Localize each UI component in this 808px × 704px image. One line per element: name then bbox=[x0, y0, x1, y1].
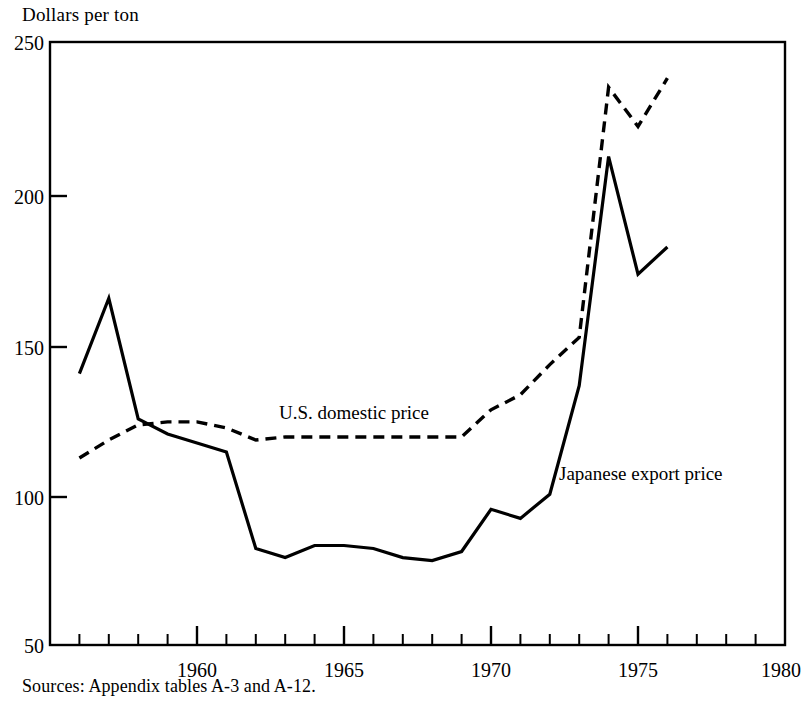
ytick-label: 200 bbox=[14, 186, 44, 208]
plot-frame bbox=[50, 42, 785, 645]
series-label-japanese-export-price: Japanese export price bbox=[559, 463, 723, 484]
ytick-label: 250 bbox=[14, 32, 44, 54]
chart-figure: Dollars per ton 250 200 150 100 50 bbox=[0, 0, 808, 704]
xtick-label: 1965 bbox=[324, 659, 364, 681]
y-axis-tick-labels: 250 200 150 100 50 bbox=[14, 32, 44, 657]
series-line-japanese-export-price bbox=[79, 157, 667, 561]
source-note: Sources: Appendix tables A-3 and A-12. bbox=[22, 676, 316, 697]
ytick-label: 100 bbox=[14, 487, 44, 509]
line-chart-plot: 250 200 150 100 50 bbox=[0, 0, 808, 704]
xtick-label: 1975 bbox=[618, 659, 658, 681]
x-axis-major-ticks bbox=[197, 626, 638, 645]
ytick-label: 150 bbox=[14, 337, 44, 359]
y-axis-ticks bbox=[50, 196, 67, 497]
x-axis-minor-ticks bbox=[79, 634, 755, 645]
xtick-label: 1980 bbox=[761, 659, 801, 681]
ytick-label: 50 bbox=[24, 635, 44, 657]
series-label-us-domestic-price: U.S. domestic price bbox=[279, 402, 429, 423]
xtick-label: 1970 bbox=[471, 659, 511, 681]
